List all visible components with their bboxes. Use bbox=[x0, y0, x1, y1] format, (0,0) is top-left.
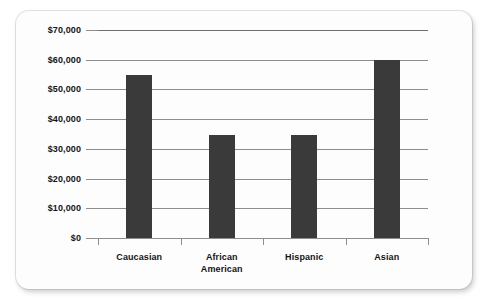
y-axis-tick bbox=[86, 179, 98, 180]
bar-african-american[interactable] bbox=[209, 135, 235, 238]
plot-area: $70,000$60,000$50,000$40,000$30,000$20,0… bbox=[98, 30, 428, 238]
y-axis-tick bbox=[86, 30, 98, 31]
y-axis-label: $10,000 bbox=[48, 203, 81, 213]
y-axis-label: $30,000 bbox=[48, 144, 81, 154]
bar-hispanic[interactable] bbox=[291, 135, 317, 238]
y-axis-label: $0 bbox=[71, 233, 81, 243]
x-axis-tick bbox=[98, 238, 99, 245]
bar-asian[interactable] bbox=[374, 60, 400, 238]
x-axis-tick bbox=[263, 238, 264, 245]
y-axis-tick bbox=[86, 149, 98, 150]
y-axis-label: $60,000 bbox=[48, 55, 81, 65]
y-axis-tick bbox=[86, 60, 98, 61]
x-axis-tick bbox=[346, 238, 347, 245]
x-axis-category-label: Caucasian bbox=[116, 252, 162, 264]
x-axis-tick bbox=[181, 238, 182, 245]
y-axis-label: $50,000 bbox=[48, 84, 81, 94]
y-axis-tick bbox=[86, 89, 98, 90]
y-axis-tick bbox=[86, 119, 98, 120]
bar-caucasian[interactable] bbox=[126, 75, 152, 238]
x-axis-tick bbox=[428, 238, 429, 245]
x-axis-category-label: Hispanic bbox=[285, 252, 323, 264]
y-axis-label: $40,000 bbox=[48, 114, 81, 124]
y-axis-label: $20,000 bbox=[48, 174, 81, 184]
y-axis-tick bbox=[86, 238, 98, 239]
x-axis-category-label: Asian bbox=[374, 252, 399, 264]
gridline bbox=[98, 30, 428, 31]
chart-card: $70,000$60,000$50,000$40,000$30,000$20,0… bbox=[16, 11, 472, 289]
y-axis-label: $70,000 bbox=[48, 25, 81, 35]
y-axis-tick bbox=[86, 208, 98, 209]
x-axis-category-label: African American bbox=[201, 252, 243, 275]
